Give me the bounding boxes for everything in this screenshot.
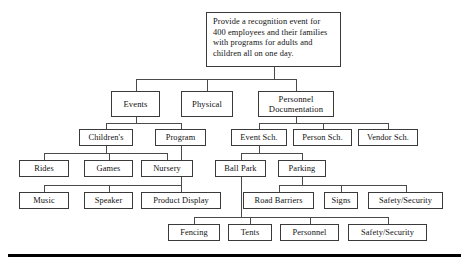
node-person-sch: Person Sch. <box>293 129 352 146</box>
bottom-divider-rule <box>8 254 461 257</box>
node-childrens: Children's <box>79 129 133 146</box>
node-parking: Parking <box>278 160 326 177</box>
node-personnel-doc: Personnel Documentation <box>258 91 334 117</box>
node-vendor-sch: Vendor Sch. <box>358 129 418 146</box>
node-physical: Physical <box>181 91 233 117</box>
node-games: Games <box>84 160 133 177</box>
node-music: Music <box>19 192 69 209</box>
node-events: Events <box>111 91 160 117</box>
node-safety-security-ballpark: Safety/Security <box>348 224 427 241</box>
node-nursery: Nursery <box>141 160 193 177</box>
wbs-diagram-canvas: Provide a recognition event for 400 empl… <box>0 0 469 267</box>
node-safety-security-parking: Safety/Security <box>368 192 443 209</box>
node-event-sch: Event Sch. <box>231 129 287 146</box>
node-speaker: Speaker <box>84 192 133 209</box>
node-root: Provide a recognition event for 400 empl… <box>206 12 341 67</box>
node-signs: Signs <box>324 192 358 209</box>
node-program: Program <box>155 129 206 146</box>
node-road-barriers: Road Barriers <box>243 192 314 209</box>
node-personnel: Personnel <box>280 224 339 241</box>
node-tents: Tents <box>228 224 272 241</box>
node-product-display: Product Display <box>141 192 221 209</box>
node-fencing: Fencing <box>168 224 220 241</box>
node-rides: Rides <box>19 160 69 177</box>
node-ball-park: Ball Park <box>215 160 266 177</box>
